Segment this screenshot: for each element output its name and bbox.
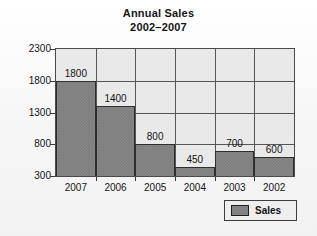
x-axis-tick-mark <box>215 177 216 181</box>
legend-label-sales: Sales <box>255 205 281 216</box>
y-axis-tick-label: 300 <box>34 171 51 181</box>
x-axis-tick-label: 2004 <box>175 182 215 193</box>
x-axis-tick-label: 2002 <box>254 182 294 193</box>
y-axis-tick-mark <box>50 49 55 50</box>
bar-value-label: 700 <box>215 138 255 149</box>
bar <box>215 151 255 176</box>
x-axis-tick-label: 2005 <box>135 182 175 193</box>
x-axis-tick-mark <box>96 177 97 181</box>
bar-value-label: 450 <box>175 154 215 165</box>
bar-value-label: 800 <box>135 131 175 142</box>
y-axis-tick-mark <box>50 144 55 145</box>
bar <box>254 157 294 176</box>
x-axis-tick-mark <box>175 177 176 181</box>
y-axis-tick-mark <box>50 113 55 114</box>
bar <box>135 144 175 176</box>
bar <box>175 167 215 177</box>
bar-chart: Annual Sales 2002–2007 23001800130080030… <box>0 0 317 236</box>
bar <box>56 81 96 176</box>
x-axis-tick-label: 2007 <box>56 182 96 193</box>
y-axis-tick-label: 800 <box>34 139 51 149</box>
y-axis-tick-label: 2300 <box>29 44 51 54</box>
x-axis-tick-mark <box>254 177 255 181</box>
bar-value-label: 1400 <box>96 93 136 104</box>
x-axis-tick-label: 2003 <box>215 182 255 193</box>
legend-swatch-sales <box>231 205 249 216</box>
y-axis-tick-label: 1800 <box>29 76 51 86</box>
y-axis-tick-label: 1300 <box>29 108 51 118</box>
bar-value-label: 600 <box>254 144 294 155</box>
bar-value-label: 1800 <box>56 68 96 79</box>
chart-title-line-2: 2002–2007 <box>0 21 317 35</box>
bar <box>96 106 136 176</box>
x-axis-tick-mark <box>135 177 136 181</box>
chart-title-line-1: Annual Sales <box>0 7 317 21</box>
x-axis-tick-label: 2006 <box>96 182 136 193</box>
y-axis-tick-mark <box>50 81 55 82</box>
chart-title: Annual Sales 2002–2007 <box>0 7 317 34</box>
legend[interactable]: Sales <box>224 200 297 221</box>
y-axis-tick-mark <box>50 176 55 177</box>
